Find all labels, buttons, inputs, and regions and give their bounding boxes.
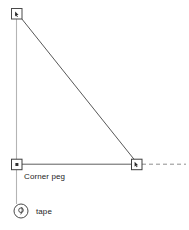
tape-label: tape bbox=[36, 207, 52, 217]
diagram-canvas bbox=[0, 0, 189, 230]
peg-center-dot-corner bbox=[15, 163, 18, 166]
survey-layout-diagram: Corner peg tape bbox=[0, 0, 189, 230]
corner-peg-label: Corner peg bbox=[24, 172, 65, 182]
diagonal-hypotenuse-line bbox=[18, 14, 138, 164]
